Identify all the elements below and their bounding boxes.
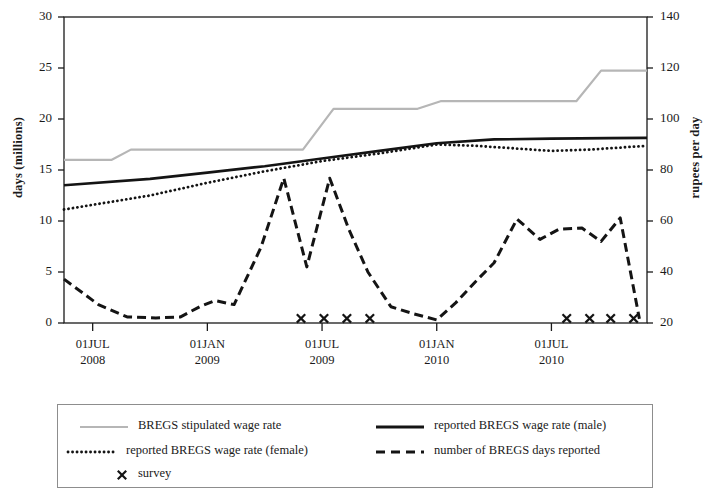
y-axis-left-tick-label: 15 [8,161,52,177]
x-axis-tick-label-year: 2008 [48,353,138,369]
x-axis-tick-label: 01JAN2009 [162,337,252,368]
x-axis-tick-label-year: 2009 [277,353,367,369]
y-axis-right-tick-label: 120 [660,59,704,75]
series-line [64,138,647,185]
survey-marker [320,314,328,322]
y-axis-right-tick-label: 80 [660,161,704,177]
x-axis-tick-label-date: 01JAN [392,337,482,353]
x-axis-tick-label: 01JUL2009 [277,337,367,368]
survey-marker [343,314,351,322]
legend-entry-label: reported BREGS wage rate (female) [126,443,308,458]
survey-marker [629,314,637,322]
y-axis-right-tick-label: 40 [660,263,704,279]
x-axis-tick-label-date: 01JAN [162,337,252,353]
y-axis-left-tick-label: 20 [8,110,52,126]
y-axis-left-tick-label: 25 [8,59,52,75]
x-axis-tick-label-year: 2010 [506,353,596,369]
x-axis-tick-label: 01JUL2010 [506,337,596,368]
y-axis-left-tick-label: 30 [8,8,52,24]
legend-entry-label: BREGS stipulated wage rate [138,418,281,433]
legend-entry-label: number of BREGS days reported [434,443,600,458]
y-axis-left-tick-label: 0 [8,314,52,330]
series-line [64,71,647,160]
y-axis-right-tick-label: 60 [660,212,704,228]
x-axis-tick-label-year: 2009 [162,353,252,369]
legend-entry-label: reported BREGS wage rate (male) [434,418,606,433]
y-axis-left-tick-label: 5 [8,263,52,279]
x-axis-tick-label: 01JAN2010 [392,337,482,368]
survey-marker [297,314,305,322]
y-axis-right-tick-label: 20 [660,314,704,330]
y-axis-right-tick-label: 140 [660,8,704,24]
chart-figure: days (millions) rupees per day 051015202… [0,0,710,496]
x-axis-tick-label-date: 01JUL [277,337,367,353]
series-line [64,178,639,320]
plot-frame [64,17,647,323]
x-axis-tick-label: 01JUL2008 [48,337,138,368]
survey-marker [563,314,571,322]
x-axis-tick-label-date: 01JUL [48,337,138,353]
legend-entry-label: survey [138,466,171,481]
survey-marker [366,314,374,322]
legend-key-survey-icon [118,471,126,479]
y-axis-left-tick-label: 10 [8,212,52,228]
x-axis-tick-label-year: 2010 [392,353,482,369]
x-axis-tick-label-date: 01JUL [506,337,596,353]
survey-marker [606,314,614,322]
survey-marker [585,314,593,322]
chart-legend: BREGS stipulated wage ratereported BREGS… [57,404,653,488]
y-axis-right-tick-label: 100 [660,110,704,126]
